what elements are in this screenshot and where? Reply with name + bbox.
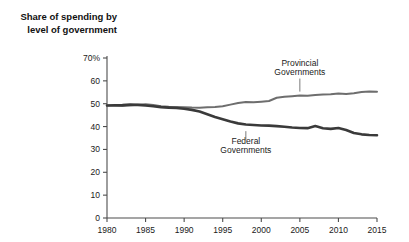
x-tick-label: 1985 (136, 225, 155, 235)
y-tick-label: 40 (91, 122, 101, 132)
line-chart: Share of spending by level of government… (0, 0, 409, 242)
x-tick-label: 1995 (213, 225, 232, 235)
chart-title: Share of spending by level of government (20, 11, 117, 35)
x-tick-label: 2005 (290, 225, 309, 235)
series-label-1-line-2: Governments (220, 145, 271, 155)
x-tick-label: 1980 (98, 225, 117, 235)
y-tick-label: 0 (95, 213, 100, 223)
y-tick-label: 70% (83, 53, 100, 63)
x-tick-label: 1990 (175, 225, 194, 235)
y-tick-label: 30 (91, 144, 101, 154)
series-annotations: ProvincialGovernmentsFederalGovernments (220, 58, 325, 155)
series-label-0-line-2: Governments (274, 67, 325, 77)
x-tick-label: 2010 (329, 225, 348, 235)
y-tick-label: 50 (91, 99, 101, 109)
x-tick-label: 2000 (252, 225, 271, 235)
y-tick-label: 10 (91, 190, 101, 200)
y-tick-label: 20 (91, 167, 101, 177)
y-axis: 010203040506070% (83, 53, 107, 223)
x-axis: 19801985199019952000200520102015 (98, 218, 387, 235)
series-line-1 (107, 105, 377, 136)
x-tick-label: 2015 (368, 225, 387, 235)
y-tick-label: 60 (91, 76, 101, 86)
chart-title-line-2: level of government (27, 24, 118, 35)
chart-title-line-1: Share of spending by (20, 11, 117, 22)
series-lines (107, 92, 377, 136)
